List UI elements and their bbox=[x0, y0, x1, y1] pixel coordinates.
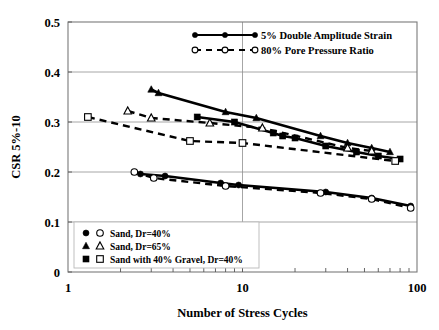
y-axis-tick-label: 0 bbox=[54, 266, 60, 280]
y-axis-tick-label: 0.1 bbox=[44, 216, 60, 230]
legend-marker-filled bbox=[83, 230, 89, 236]
data-point-marker bbox=[317, 190, 324, 197]
legend-label: Sand, Dr=40% bbox=[110, 229, 171, 239]
y-axis-tick-label: 0.2 bbox=[44, 166, 60, 180]
legend-marker-filled bbox=[83, 256, 89, 262]
data-point-marker bbox=[239, 140, 246, 147]
csr-vs-stress-cycles-chart: 00.10.20.30.40.5110100Number of Stress C… bbox=[0, 0, 439, 330]
legend-label: 5% Double Amplitude Strain bbox=[261, 30, 392, 41]
data-point-marker bbox=[323, 143, 329, 149]
legend-marker bbox=[222, 32, 227, 37]
data-point-marker bbox=[194, 114, 200, 120]
data-point-marker bbox=[85, 114, 92, 121]
chart-container: 00.10.20.30.40.5110100Number of Stress C… bbox=[0, 0, 439, 330]
x-axis-tick-label: 100 bbox=[408, 281, 427, 295]
x-axis-title: Number of Stress Cycles bbox=[177, 306, 308, 320]
y-axis-tick-label: 0.4 bbox=[44, 66, 60, 80]
data-point-marker bbox=[222, 183, 229, 190]
legend-marker bbox=[192, 32, 197, 37]
legend-label: Sand, Dr=65% bbox=[110, 242, 171, 252]
data-point-marker bbox=[150, 175, 157, 182]
data-point-marker bbox=[392, 158, 399, 165]
data-point-marker bbox=[236, 182, 242, 188]
y-axis-tick-label: 0.3 bbox=[44, 116, 60, 130]
data-point-marker bbox=[407, 205, 414, 212]
legend-marker-open bbox=[97, 230, 104, 237]
legend-label: Sand with 40% Gravel, Dr=40% bbox=[110, 255, 243, 265]
legend-label: 80% Pore Pressure Ratio bbox=[261, 45, 374, 56]
legend-marker bbox=[252, 32, 257, 37]
data-point-marker bbox=[187, 138, 194, 145]
legend-marker-open bbox=[97, 256, 104, 263]
x-axis-tick-label: 10 bbox=[236, 281, 249, 295]
legend-marker bbox=[252, 47, 258, 53]
legend-marker bbox=[192, 47, 198, 53]
y-axis-title: CSR 5%-10 bbox=[9, 115, 23, 179]
x-axis-tick-label: 1 bbox=[65, 281, 71, 295]
data-point-marker bbox=[232, 119, 238, 125]
material-legend: Sand, Dr=40%Sand, Dr=65%Sand with 40% Gr… bbox=[74, 222, 259, 268]
data-point-marker bbox=[131, 169, 138, 176]
legend-marker bbox=[222, 47, 228, 53]
y-axis-tick-label: 0.5 bbox=[44, 16, 60, 30]
data-point-marker bbox=[368, 196, 375, 203]
